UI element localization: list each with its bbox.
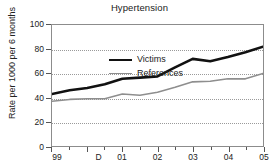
x-tick-label-05: 05 xyxy=(253,153,275,162)
legend-label-victims: Victims xyxy=(137,55,166,64)
x-tick-mark-minor-5 xyxy=(211,147,212,150)
legend-label-references: References xyxy=(137,69,183,78)
legend-item-references: References xyxy=(109,69,183,78)
y-tick-label-80: 80 xyxy=(18,45,44,54)
x-tick-mark-minor-2 xyxy=(104,147,105,150)
series-layer xyxy=(52,25,263,146)
y-tick-label-40: 40 xyxy=(18,94,44,103)
x-tick-mark-minor-6 xyxy=(246,147,247,150)
y-axis-label: Rate per 1000 per 6 months xyxy=(7,0,17,131)
x-tick-label-04: 04 xyxy=(218,153,240,162)
y-tick-label-20: 20 xyxy=(18,118,44,127)
y-tick-label-0: 0 xyxy=(18,143,44,152)
chart-title: Hypertension xyxy=(0,2,279,13)
x-tick-label-99: 99 xyxy=(46,153,68,162)
plot-area: Victims References xyxy=(51,24,264,147)
legend-item-victims: Victims xyxy=(109,55,183,64)
x-tick-label-d: D xyxy=(88,153,110,162)
chart-legend: Victims References xyxy=(109,55,183,78)
chart-figure: Hypertension Rate per 1000 per 6 months … xyxy=(0,0,279,168)
x-tick-mark-minor-4 xyxy=(175,147,176,150)
y-tick-label-100: 100 xyxy=(18,20,44,29)
x-tick-label-02: 02 xyxy=(147,153,169,162)
x-tick-mark-minor-1 xyxy=(69,147,70,150)
references-line-swatch-icon xyxy=(109,73,132,74)
x-tick-mark-1 xyxy=(87,147,88,152)
victims-line-swatch-icon xyxy=(109,59,132,61)
x-tick-label-03: 03 xyxy=(182,153,204,162)
x-tick-mark-minor-3 xyxy=(140,147,141,150)
y-tick-label-60: 60 xyxy=(18,69,44,78)
x-tick-label-01: 01 xyxy=(111,153,133,162)
